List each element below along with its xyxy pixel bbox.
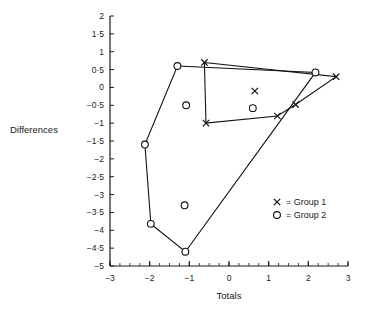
y-tick-label: −2: [94, 154, 104, 164]
y-tick-label: 2: [99, 11, 104, 21]
marker-circle: [147, 220, 154, 227]
marker-cross: [252, 88, 258, 94]
y-tick-label: 0: [99, 82, 104, 92]
legend-entry-label: = Group 1: [286, 197, 326, 207]
x-tick-label: 1: [266, 273, 271, 283]
x-axis-ticks: [110, 261, 348, 266]
y-tick-label: −3·5: [87, 207, 105, 217]
marker-cross: [292, 101, 298, 107]
y-tick-label: 1: [99, 47, 104, 57]
x-axis-tick-labels: −3−2−10123: [105, 273, 350, 283]
legend: = Group 1= Group 2: [274, 197, 327, 220]
x-tick-label: −1: [184, 273, 194, 283]
y-tick-label: 1·5: [92, 29, 105, 39]
legend-marker-circle: [274, 212, 281, 219]
marker-circle: [312, 69, 319, 76]
x-tick-label: 0: [227, 273, 232, 283]
marker-circle: [249, 105, 256, 112]
legend-marker-cross: [274, 199, 280, 205]
plot-canvas: 21·510·50−0·5−1−1·5−2−2·5−3−3·5−4−4·5−5 …: [0, 0, 382, 311]
y-axis-tick-labels: 21·510·50−0·5−1−1·5−2−2·5−3−3·5−4−4·5−5: [87, 11, 105, 271]
convex-hull-polygons: [145, 62, 336, 251]
marker-circle: [182, 248, 189, 255]
x-axis: −3−2−10123: [105, 261, 350, 283]
y-tick-label: −1: [94, 118, 104, 128]
x-tick-label: −2: [145, 273, 155, 283]
data-point-markers: [142, 59, 340, 255]
y-axis-title: Differences: [10, 124, 58, 135]
y-tick-label: 0·5: [92, 65, 105, 75]
x-tick-label: 2: [306, 273, 311, 283]
x-tick-label: −3: [105, 273, 115, 283]
y-tick-label: −4·5: [87, 243, 105, 253]
x-axis-title: Totals: [217, 290, 242, 301]
y-tick-label: −2·5: [87, 172, 105, 182]
marker-circle: [181, 202, 188, 209]
y-axis: 21·510·50−0·5−1−1·5−2−2·5−3−3·5−4−4·5−5: [87, 11, 114, 271]
y-tick-label: −5: [94, 261, 104, 271]
legend-entry-label: = Group 2: [286, 210, 326, 220]
y-tick-label: −4: [94, 225, 104, 235]
marker-circle: [174, 63, 181, 70]
marker-circle: [142, 141, 149, 148]
y-tick-label: −3: [94, 190, 104, 200]
y-tick-label: −1·5: [87, 136, 105, 146]
x-tick-label: 3: [346, 273, 351, 283]
marker-circle: [183, 102, 190, 109]
scatter-chart: 21·510·50−0·5−1−1·5−2−2·5−3−3·5−4−4·5−5 …: [0, 0, 382, 311]
hull-group-2: [145, 66, 316, 252]
y-tick-label: −0·5: [87, 100, 105, 110]
